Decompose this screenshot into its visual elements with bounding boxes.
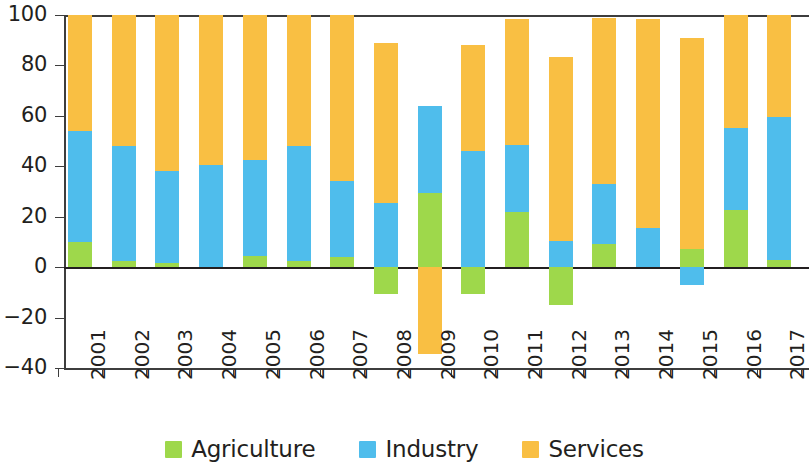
bar-segment-industry-2006 — [287, 146, 311, 261]
bar-group-2002[interactable] — [112, 15, 136, 368]
bar-segment-industry-2009 — [418, 106, 442, 193]
x-tick-label-2004: 2004 — [219, 329, 239, 380]
legend-item-agriculture[interactable]: Agriculture — [165, 438, 315, 461]
bar-segment-services-2007 — [330, 15, 354, 181]
bar-group-2006[interactable] — [287, 15, 311, 368]
bar-group-2011[interactable] — [505, 15, 529, 368]
y-tick-60 — [55, 116, 64, 117]
bar-segment-industry-2016 — [724, 128, 748, 210]
bar-segment-agriculture-2006 — [287, 261, 311, 267]
bar-segment-services-2001 — [68, 15, 92, 131]
bar-segment-agriculture-2012 — [549, 267, 573, 305]
bar-group-2001[interactable] — [68, 15, 92, 368]
bar-group-2017[interactable] — [767, 15, 791, 368]
bar-segment-agriculture-2005 — [243, 256, 267, 267]
bar-segment-agriculture-2017 — [767, 260, 791, 268]
bar-segment-agriculture-2013 — [592, 244, 616, 267]
x-tick-label-2016: 2016 — [744, 329, 764, 380]
x-tick-label-2011: 2011 — [525, 329, 545, 380]
legend-label-services: Services — [548, 438, 643, 461]
bar-group-2007[interactable] — [330, 15, 354, 368]
bar-group-2012[interactable] — [549, 15, 573, 368]
bar-segment-services-2005 — [243, 15, 267, 160]
legend-item-industry[interactable]: Industry — [359, 438, 478, 461]
bar-segment-services-2006 — [287, 15, 311, 146]
y-tick-40 — [55, 166, 64, 167]
bar-segment-industry-2004 — [199, 165, 223, 267]
x-tick-label-2012: 2012 — [569, 329, 589, 380]
stacked-bar-chart: 100806040200−20−40 200120022003200420052… — [0, 0, 809, 466]
bar-segment-industry-2010 — [461, 151, 485, 267]
bar-group-2005[interactable] — [243, 15, 267, 368]
bar-segment-agriculture-2016 — [724, 210, 748, 267]
y-tick--20 — [55, 318, 64, 319]
bar-segment-industry-2008 — [374, 203, 398, 267]
x-tick-label-2002: 2002 — [132, 329, 152, 380]
bar-segment-industry-2011 — [505, 145, 529, 212]
bar-segment-agriculture-2003 — [155, 263, 179, 267]
bar-segment-agriculture-2001 — [68, 242, 92, 267]
x-tick-label-2013: 2013 — [612, 329, 632, 380]
bar-segment-industry-2012 — [549, 241, 573, 267]
bar-segment-services-2015 — [680, 38, 704, 250]
bar-segment-services-2017 — [767, 15, 791, 117]
x-tick-label-2006: 2006 — [307, 329, 327, 380]
y-tick--40 — [55, 368, 64, 369]
bar-segment-agriculture-2010 — [461, 267, 485, 293]
bar-segment-industry-2001 — [68, 131, 92, 242]
bar-segment-industry-2005 — [243, 160, 267, 256]
bar-segment-industry-2007 — [330, 181, 354, 257]
y-tick-20 — [55, 217, 64, 218]
bar-group-2016[interactable] — [724, 15, 748, 368]
bar-group-2008[interactable] — [374, 15, 398, 368]
bar-segment-industry-2013 — [592, 184, 616, 245]
bar-segment-services-2013 — [592, 18, 616, 184]
x-tick-2001 — [58, 368, 59, 377]
bar-group-2004[interactable] — [199, 15, 223, 368]
x-tick-label-2003: 2003 — [175, 329, 195, 380]
bar-segment-services-2011 — [505, 19, 529, 145]
x-tick-label-2015: 2015 — [700, 329, 720, 380]
y-tick-label-40: 40 — [0, 155, 47, 176]
bar-segment-services-2016 — [724, 15, 748, 128]
legend-label-industry: Industry — [385, 438, 478, 461]
y-tick-100 — [55, 15, 64, 16]
bar-segment-agriculture-2008 — [374, 267, 398, 293]
y-tick-label--40: −40 — [0, 357, 47, 378]
bar-segment-agriculture-2009 — [418, 193, 442, 267]
bar-segment-services-2008 — [374, 43, 398, 203]
bar-segment-services-2014 — [636, 19, 660, 228]
bar-segment-agriculture-2015 — [680, 249, 704, 267]
legend-swatch-icon-agriculture — [165, 441, 182, 458]
bar-segment-industry-2014 — [636, 228, 660, 267]
bar-segment-services-2004 — [199, 15, 223, 165]
x-tick-label-2005: 2005 — [263, 329, 283, 380]
y-tick-label--20: −20 — [0, 307, 47, 328]
bar-group-2014[interactable] — [636, 15, 660, 368]
bar-group-2009[interactable] — [418, 15, 442, 368]
plot-area — [64, 15, 809, 368]
bar-segment-industry-2002 — [112, 146, 136, 261]
bar-segment-industry-2015 — [680, 267, 704, 285]
bar-group-2010[interactable] — [461, 15, 485, 368]
x-tick-label-2007: 2007 — [350, 329, 370, 380]
y-tick-label-80: 80 — [0, 54, 47, 75]
x-tick-label-2017: 2017 — [787, 329, 807, 380]
bar-segment-industry-2003 — [155, 171, 179, 263]
y-tick-label-100: 100 — [0, 4, 47, 25]
bar-segment-services-2012 — [549, 57, 573, 241]
bar-group-2013[interactable] — [592, 15, 616, 368]
bar-segment-agriculture-2011 — [505, 212, 529, 267]
bar-segment-services-2010 — [461, 45, 485, 151]
y-tick-label-0: 0 — [0, 256, 47, 277]
bar-group-2003[interactable] — [155, 15, 179, 368]
y-tick-label-60: 60 — [0, 105, 47, 126]
x-tick-label-2008: 2008 — [394, 329, 414, 380]
bar-segment-services-2003 — [155, 15, 179, 171]
bar-segment-services-2002 — [112, 15, 136, 146]
x-tick-label-2010: 2010 — [481, 329, 501, 380]
x-tick-label-2014: 2014 — [656, 329, 676, 380]
legend-item-services[interactable]: Services — [522, 438, 643, 461]
bar-segment-agriculture-2002 — [112, 261, 136, 267]
bar-group-2015[interactable] — [680, 15, 704, 368]
